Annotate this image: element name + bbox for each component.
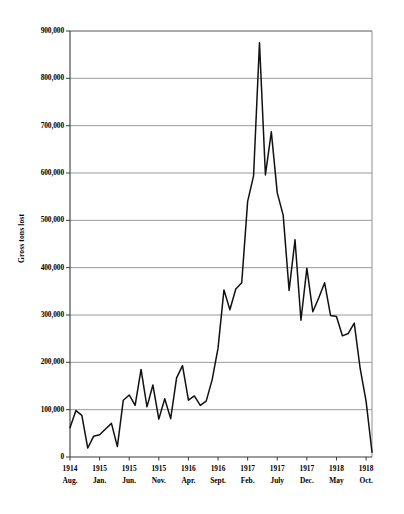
y-tick-label-300000: 300,000 <box>10 310 64 319</box>
x-tick-label-1918-Oct: 1918Oct. <box>342 463 390 486</box>
y-tick-label-400000: 400,000 <box>10 263 64 272</box>
y-tick-label-100000: 100,000 <box>10 405 64 414</box>
y-tick-label-200000: 200,000 <box>10 357 64 366</box>
x-tick-year: 1918 <box>342 463 390 475</box>
data-series-line <box>70 43 372 452</box>
chart-figure: Gross tons lost 0100,000200,000300,00040… <box>0 0 404 514</box>
y-tick-label-800000: 800,000 <box>10 73 64 82</box>
y-tick-marks-group <box>66 31 70 457</box>
y-tick-label-900000: 900,000 <box>10 26 64 35</box>
y-tick-label-0: 0 <box>10 452 64 461</box>
y-tick-label-600000: 600,000 <box>10 168 64 177</box>
gridlines-group <box>70 31 372 410</box>
y-tick-label-700000: 700,000 <box>10 121 64 130</box>
x-tick-month: Oct. <box>342 475 390 487</box>
plot-frame <box>70 31 372 457</box>
y-tick-label-500000: 500,000 <box>10 215 64 224</box>
